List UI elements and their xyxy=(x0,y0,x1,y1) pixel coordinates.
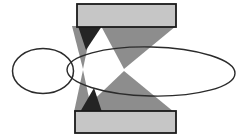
small-circle xyxy=(13,49,74,94)
figure-canvas xyxy=(0,0,240,140)
geometric-diagram xyxy=(0,0,240,140)
bottom-bar xyxy=(75,111,176,133)
top-bar xyxy=(77,4,176,27)
large-ellipse xyxy=(66,45,235,98)
